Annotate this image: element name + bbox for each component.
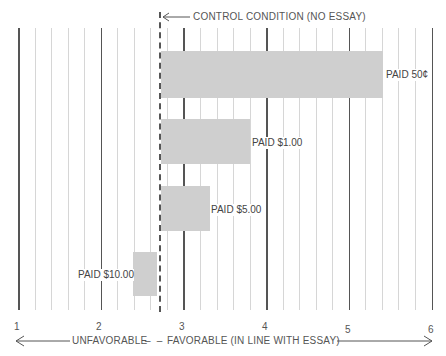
x-tick: 1 xyxy=(14,321,20,332)
bar-label: PAID $10.00 xyxy=(78,269,134,281)
bar-paid-1 xyxy=(161,119,250,164)
bar-label: PAID $5.00 xyxy=(211,204,261,216)
x-tick: 2 xyxy=(96,321,102,332)
x-tick: 5 xyxy=(345,324,351,335)
favorable-label: FAVORABLE (IN LINE WITH ESSAY) xyxy=(167,335,340,346)
unfavorable-label: UNFAVORABLE xyxy=(72,335,147,346)
x-tick: 3 xyxy=(179,321,185,332)
bar-label: PAID 50¢ xyxy=(386,69,428,81)
chart: CONTROL CONDITION (NO ESSAY) PAID 50¢ PA… xyxy=(0,0,446,356)
x-tick: 6 xyxy=(428,324,434,335)
x-tick: 4 xyxy=(262,321,268,332)
bar-paid-5 xyxy=(161,186,210,231)
bar-paid-10 xyxy=(133,252,157,296)
dash-sep: – – xyxy=(145,335,162,346)
control-label: CONTROL CONDITION (NO ESSAY) xyxy=(193,11,366,22)
bar-label: PAID $1.00 xyxy=(252,137,302,149)
bar-paid-50c xyxy=(161,51,383,98)
